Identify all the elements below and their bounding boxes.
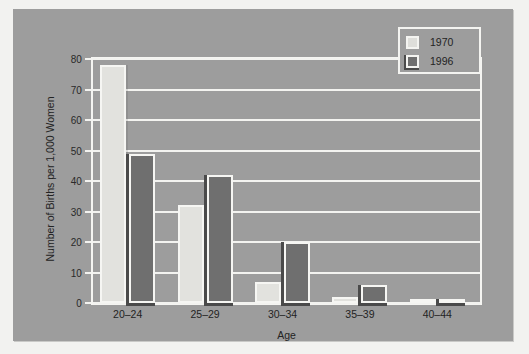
bar-1970-25-29 bbox=[178, 205, 204, 303]
y-axis-tick bbox=[85, 241, 91, 243]
bar-1996-20-24 bbox=[129, 154, 155, 303]
legend-swatch-icon-1996 bbox=[406, 55, 419, 68]
bar-1970-30-34 bbox=[255, 282, 281, 303]
y-axis-tick-label: 50 bbox=[71, 145, 82, 156]
bar-1970-20-24 bbox=[100, 65, 126, 303]
legend: 1970 1996 bbox=[398, 27, 481, 74]
y-axis-tick-label: 20 bbox=[71, 237, 82, 248]
figure-container: Number of Births per 1,000 Women 0102030… bbox=[0, 0, 529, 354]
x-axis-tick-label: 25–29 bbox=[190, 308, 219, 320]
y-axis-tick-label: 0 bbox=[76, 298, 82, 309]
y-axis-tick bbox=[85, 211, 91, 213]
chart-figure: Number of Births per 1,000 Women 0102030… bbox=[13, 9, 513, 341]
bar-1996-30-34 bbox=[284, 242, 310, 303]
y-axis-tick-label: 60 bbox=[71, 115, 82, 126]
y-axis-tick bbox=[85, 89, 91, 91]
bar-1996-35-39 bbox=[361, 285, 387, 303]
legend-label-1970: 1970 bbox=[430, 36, 453, 48]
y-axis-tick bbox=[85, 58, 91, 60]
gridline bbox=[93, 119, 480, 121]
y-axis-tick bbox=[85, 150, 91, 152]
x-axis-tick-label: 30–34 bbox=[268, 308, 297, 320]
x-axis-title: Age bbox=[91, 329, 482, 341]
y-axis-title: Number of Births per 1,000 Women bbox=[43, 57, 57, 301]
y-axis-tick-label: 80 bbox=[71, 54, 82, 65]
plot-inner bbox=[93, 59, 480, 303]
bar-1996-25-29 bbox=[207, 175, 233, 303]
gridline bbox=[93, 150, 480, 152]
y-axis-tick bbox=[85, 302, 91, 304]
bar-1970-40-44 bbox=[410, 299, 436, 303]
y-axis-tick-label: 70 bbox=[71, 84, 82, 95]
bar-1996-40-44 bbox=[439, 299, 465, 303]
y-axis-tick bbox=[85, 272, 91, 274]
x-axis-tick-label: 35–39 bbox=[345, 308, 374, 320]
legend-label-1996: 1996 bbox=[430, 55, 453, 67]
x-axis-tick-label: 20–24 bbox=[113, 308, 142, 320]
y-axis-tick-label: 40 bbox=[71, 176, 82, 187]
plot-area: 01020304050607080 bbox=[91, 57, 482, 305]
y-axis-tick bbox=[85, 180, 91, 182]
y-axis-tick-label: 30 bbox=[71, 206, 82, 217]
y-axis-tick bbox=[85, 119, 91, 121]
legend-item-1996: 1996 bbox=[406, 53, 453, 69]
gridline bbox=[93, 89, 480, 91]
legend-swatch-icon-1970 bbox=[406, 36, 419, 49]
legend-item-1970: 1970 bbox=[406, 34, 453, 50]
x-axis-tick-label: 40–44 bbox=[423, 308, 452, 320]
y-axis-tick-label: 10 bbox=[71, 267, 82, 278]
bar-1970-35-39 bbox=[332, 297, 358, 303]
